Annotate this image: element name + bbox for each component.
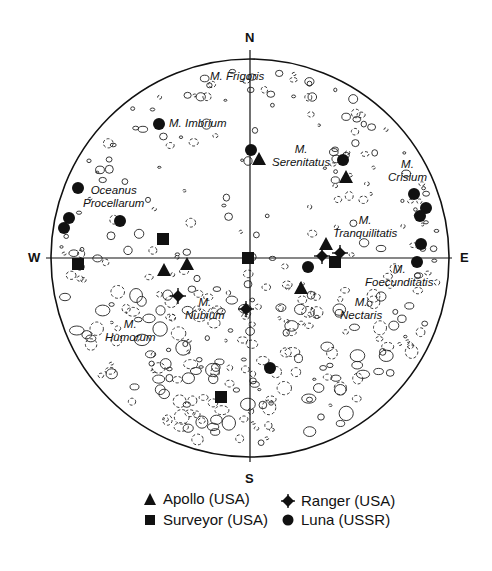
legend-item-surveyor: Surveyor (USA) xyxy=(143,511,268,528)
luna-circle-icon xyxy=(245,144,257,156)
mare-label-foecunditatis: M.Foecunditatis xyxy=(365,263,433,289)
legend-item-luna: Luna (USSR) xyxy=(281,511,390,528)
compass-east-label: E xyxy=(460,250,469,265)
luna-circle-icon xyxy=(153,118,165,130)
luna-circle-icon xyxy=(414,210,426,222)
mare-label-frigoris: M. Frigoris xyxy=(210,70,264,83)
legend-item-apollo: Apollo (USA) xyxy=(143,490,250,507)
mare-label-serenitatus: M.Serenitatus xyxy=(272,143,330,169)
ranger-diamond-icon xyxy=(281,494,295,508)
triangle-icon xyxy=(143,492,157,506)
legend-label-ranger: Ranger (USA) xyxy=(301,492,395,509)
luna-circle-icon xyxy=(302,261,314,273)
luna-circle-icon xyxy=(415,238,427,250)
circle-icon xyxy=(281,513,295,527)
surveyor-square-icon xyxy=(157,233,169,245)
mare-label-tranquilitatis: M.Tranquilitatis xyxy=(333,214,397,240)
square-icon xyxy=(143,513,157,527)
luna-circle-icon xyxy=(58,222,70,234)
compass-south-label: S xyxy=(245,471,254,486)
luna-circle-icon xyxy=(408,188,420,200)
compass-north-label: N xyxy=(245,30,254,45)
surveyor-square-icon xyxy=(242,252,254,264)
compass-west-label: W xyxy=(28,250,40,265)
moon-map-figure: N S W E M. FrigorisM. ImbriumM.Serenitat… xyxy=(0,0,492,571)
legend-item-ranger: Ranger (USA) xyxy=(281,492,395,509)
luna-circle-icon xyxy=(114,215,126,227)
legend-label-luna: Luna (USSR) xyxy=(301,511,390,528)
mare-label-imbrium: M. Imbrium xyxy=(169,117,227,130)
surveyor-square-icon xyxy=(72,258,84,270)
legend-label-surveyor: Surveyor (USA) xyxy=(163,511,268,528)
legend-label-apollo: Apollo (USA) xyxy=(163,490,250,507)
mare-label-oceanus: OceanusProcellarum xyxy=(83,184,144,210)
mare-label-nubium: M.Nubium xyxy=(185,296,225,322)
mare-label-nectaris: M.Nectaris xyxy=(340,296,382,322)
mare-label-humorum: M.Humorum xyxy=(105,318,155,344)
luna-circle-icon xyxy=(264,362,276,374)
mare-label-crisium: M.Crisium xyxy=(388,158,427,184)
surveyor-square-icon xyxy=(215,391,227,403)
luna-circle-icon xyxy=(337,154,349,166)
